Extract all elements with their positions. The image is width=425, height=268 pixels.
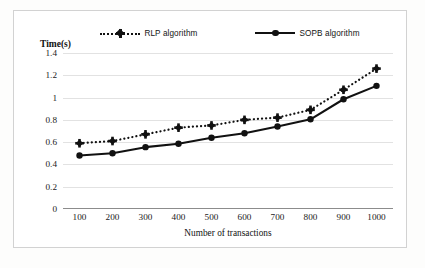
y-axis-tick-label: 1.4: [29, 48, 63, 58]
data-point-marker: [175, 141, 181, 147]
data-point-marker: [373, 83, 379, 89]
data-point-marker: [75, 142, 84, 145]
page-background: RLP algorithm SOPB algorithm Time(s) 00.…: [0, 0, 425, 268]
data-point-marker: [142, 144, 148, 150]
y-axis-tick-label: 0.8: [29, 115, 63, 125]
data-point-marker: [306, 109, 315, 112]
data-point-marker: [240, 119, 249, 122]
data-point-marker: [307, 116, 313, 122]
legend-entry-sopb: SOPB algorithm: [255, 28, 359, 39]
solid-line-circle-marker-icon: [255, 28, 295, 39]
y-axis-tick-label: 0.4: [29, 159, 63, 169]
y-axis-tick-labels: 00.20.40.60.811.21.4: [23, 53, 63, 209]
y-axis-tick-label: 0.6: [29, 137, 63, 147]
data-point-marker: [241, 130, 247, 136]
legend-label-sopb: SOPB algorithm: [299, 29, 359, 38]
y-axis-tick-label: 1: [29, 93, 63, 103]
chart-legend: RLP algorithm SOPB algorithm: [14, 25, 406, 41]
y-axis-tick-label: 0: [29, 204, 63, 214]
data-point-marker: [340, 96, 346, 102]
series-sopb: [76, 83, 379, 159]
data-point-marker: [274, 123, 280, 129]
data-point-marker: [372, 67, 381, 70]
data-point-marker: [76, 152, 82, 158]
series-container: [63, 53, 393, 209]
y-axis-tick-label: 1.2: [29, 70, 63, 80]
chart-frame: RLP algorithm SOPB algorithm Time(s) 00.…: [13, 10, 407, 248]
legend-entry-rlp: RLP algorithm: [100, 28, 197, 39]
data-point-marker: [208, 134, 214, 140]
x-axis-tick-label: 1000: [357, 212, 397, 222]
x-axis-tick-labels: 1002003004005006007008009001000: [63, 212, 393, 226]
data-point-marker: [141, 133, 150, 136]
dotted-line-cross-marker-icon: [100, 28, 140, 39]
legend-label-rlp: RLP algorithm: [144, 29, 197, 38]
data-point-marker: [108, 140, 117, 143]
data-point-marker: [207, 124, 216, 127]
data-point-marker: [109, 150, 115, 156]
y-axis-tick-label: 0.2: [29, 182, 63, 192]
x-axis-title: Number of transactions: [63, 228, 393, 238]
data-point-marker: [273, 116, 282, 119]
data-point-marker: [174, 126, 183, 129]
data-point-marker: [339, 88, 348, 91]
plot-area: [63, 53, 393, 209]
